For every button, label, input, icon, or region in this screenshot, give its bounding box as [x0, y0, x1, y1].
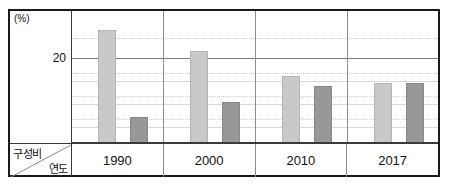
plot-area: (%) 20: [10, 11, 438, 143]
chart-figure: (%) 20: [0, 0, 450, 189]
corner-label-year: 연도: [49, 160, 68, 176]
bars-panel: [72, 11, 438, 143]
bar-2017-series-2: [406, 83, 424, 143]
bar-2000-series-2: [222, 102, 240, 143]
x-axis-label-2010: 2010: [256, 144, 348, 177]
corner-header-cell: 구성비 연도: [10, 143, 72, 177]
bar-1990-series-2: [130, 117, 148, 143]
bar-2010-series-2: [314, 86, 332, 143]
category-separator-2: [255, 11, 256, 143]
corner-label-composition: 구성비: [13, 145, 42, 161]
bar-2000-series-1: [190, 51, 208, 143]
bar-2017-series-1: [374, 83, 392, 143]
x-axis-label-2000: 2000: [164, 144, 256, 177]
bar-1990-series-1: [98, 30, 116, 143]
y-axis-label-zone: (%) 20: [10, 11, 72, 143]
x-axis-category-row: 1990 2000 2010 2017: [72, 143, 438, 177]
y-axis-unit-label: (%): [14, 13, 30, 24]
x-axis-label-2017: 2017: [347, 144, 438, 177]
y-tick-label-20: 20: [53, 51, 66, 65]
bar-2010-series-1: [282, 76, 300, 143]
category-separator-3: [347, 11, 348, 143]
x-axis-label-1990: 1990: [72, 144, 164, 177]
chart-frame: (%) 20: [8, 9, 440, 177]
chart-title: [0, 0, 450, 3]
category-separator-1: [163, 11, 164, 143]
